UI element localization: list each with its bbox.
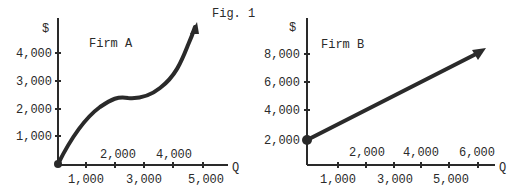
x-axis-label: Q bbox=[232, 161, 239, 175]
x-tick-labels: 1,000 2,000 3,000 4,000 5,000 bbox=[68, 148, 224, 187]
y-axis-label: $ bbox=[289, 21, 296, 35]
y-tick-label: 4,000 bbox=[264, 104, 300, 118]
x-tick-label: 6,000 bbox=[459, 146, 495, 160]
x-tick-label: 2,000 bbox=[349, 146, 385, 160]
x-tick-label: 3,000 bbox=[377, 173, 413, 187]
x-tick-label: 4,000 bbox=[403, 146, 439, 160]
y-tick-labels: 1,000 2,000 3,000 4,000 bbox=[16, 47, 52, 144]
figure-canvas: Fig. 1 $ Q Firm A 1,000 2,000 3,000 4,00… bbox=[0, 0, 516, 192]
y-tick-label: 8,000 bbox=[264, 48, 300, 62]
chart-firm-a: $ Q Firm A 1,000 2,000 3,000 4,000 1,000 bbox=[16, 18, 239, 187]
y-tick-labels: 2,000 4,000 6,000 8,000 bbox=[264, 48, 300, 148]
x-tick-label: 3,000 bbox=[126, 173, 162, 187]
arrow-head-icon bbox=[190, 22, 199, 34]
chart-title: Firm A bbox=[89, 37, 133, 51]
x-tick-label: 2,000 bbox=[100, 148, 136, 162]
y-tick-label: 2,000 bbox=[16, 103, 52, 117]
chart-firm-b: $ Q Firm B 2,000 4,000 6,000 8,000 1,000 bbox=[264, 18, 506, 187]
cost-line bbox=[307, 53, 478, 140]
y-tick-label: 2,000 bbox=[264, 134, 300, 148]
y-tick-label: 1,000 bbox=[16, 130, 52, 144]
x-tick-label: 4,000 bbox=[156, 148, 192, 162]
x-tick-label: 5,000 bbox=[188, 173, 224, 187]
x-tick-label: 1,000 bbox=[68, 173, 104, 187]
x-axis-label: Q bbox=[499, 161, 506, 175]
y-tick-label: 4,000 bbox=[16, 47, 52, 61]
y-tick-label: 3,000 bbox=[16, 75, 52, 89]
chart-title: Firm B bbox=[321, 38, 364, 52]
y-tick-label: 6,000 bbox=[264, 76, 300, 90]
figure-title: Fig. 1 bbox=[212, 7, 255, 21]
y-axis-label: $ bbox=[42, 22, 49, 36]
x-tick-labels: 1,000 2,000 3,000 4,000 5,000 6,000 bbox=[320, 146, 495, 187]
x-tick-label: 1,000 bbox=[320, 173, 356, 187]
x-tick-label: 5,000 bbox=[433, 173, 469, 187]
